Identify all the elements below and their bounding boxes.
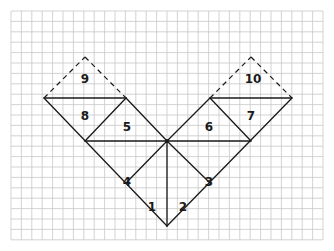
v-shape-diagram: 1 2 3 4 5 6 7 8 9 10: [0, 0, 334, 251]
piece-label-9: 9: [81, 72, 89, 86]
piece-label-3: 3: [205, 175, 213, 189]
piece-label-6: 6: [205, 120, 213, 134]
piece-labels: 1 2 3 4 5 6 7 8 9 10: [81, 72, 262, 214]
center-vertex-dot: [165, 139, 169, 143]
piece-label-10: 10: [245, 72, 262, 86]
piece-label-8: 8: [81, 109, 89, 123]
piece-label-5: 5: [123, 120, 131, 134]
piece-label-2: 2: [179, 200, 187, 214]
piece-label-4: 4: [123, 175, 131, 189]
piece-label-1: 1: [148, 200, 156, 214]
piece-label-7: 7: [247, 109, 255, 123]
